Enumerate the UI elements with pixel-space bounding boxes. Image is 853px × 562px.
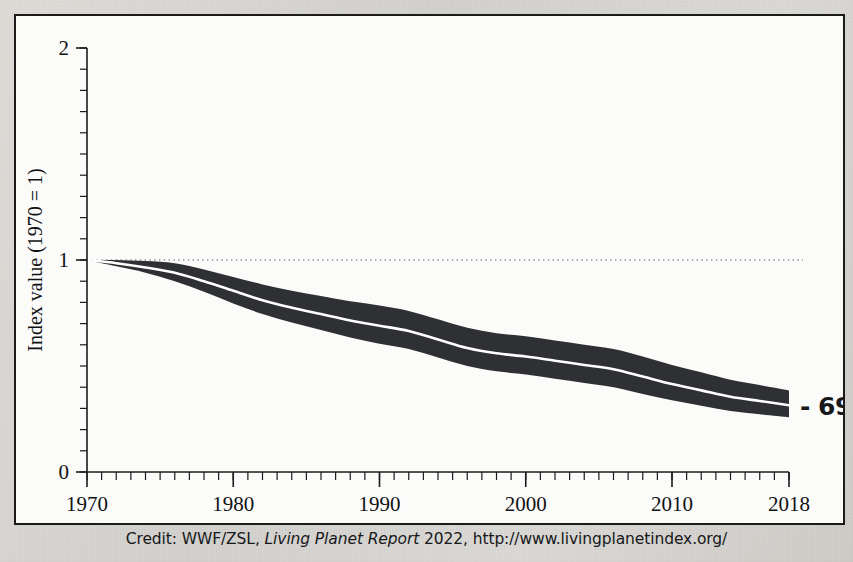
credit-suffix: 2022, http://www.livingplanetindex.org/ — [419, 530, 727, 548]
percent-change-annotation: - 69% — [800, 392, 843, 421]
chart-frame: 012 197019801990200020102018 Index value… — [14, 14, 845, 525]
x-axis-tick-label: 2018 — [768, 492, 810, 516]
credit-prefix: Credit: WWF/ZSL, — [126, 530, 265, 548]
x-axis-tick-label: 1980 — [212, 492, 254, 516]
y-axis-tick-labels: 012 — [59, 36, 70, 484]
y-axis-tick-label: 0 — [59, 460, 70, 484]
x-axis-tick-label: 1970 — [66, 492, 108, 516]
credit-line: Credit: WWF/ZSL, Living Planet Report 20… — [0, 530, 853, 548]
living-planet-index-chart: 012 197019801990200020102018 Index value… — [16, 16, 843, 523]
chart-page: 012 197019801990200020102018 Index value… — [0, 0, 853, 562]
y-axis-tick-label: 1 — [59, 248, 70, 272]
x-axis-tick-label: 2010 — [651, 492, 693, 516]
y-axis-title: Index value (1970 = 1) — [24, 168, 47, 351]
x-axis-minor-ticks — [87, 472, 789, 480]
y-axis-tick-label: 2 — [59, 36, 70, 60]
credit-report-title: Living Planet Report — [265, 530, 420, 548]
x-axis-tick-labels: 197019801990200020102018 — [66, 492, 810, 516]
x-axis-tick-label: 1990 — [359, 492, 401, 516]
x-axis-tick-label: 2000 — [505, 492, 547, 516]
